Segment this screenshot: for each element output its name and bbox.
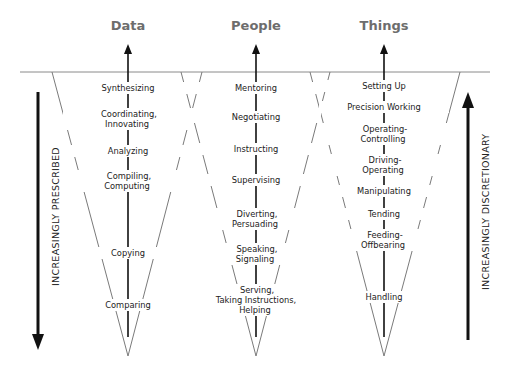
column-title-things: Things: [324, 18, 444, 33]
people-level-negotiating: Negotiating: [230, 112, 282, 122]
column-title-people: People: [196, 18, 316, 33]
up-arrow-icon: [462, 92, 474, 108]
people-level-serving: Serving, Taking Instructions, Helping: [216, 285, 296, 315]
things-level-tending: Tending: [366, 209, 402, 219]
things-up-arrow-icon: [380, 44, 388, 54]
things-level-feeding-offbearing: Feeding- Offbearing: [361, 230, 407, 250]
data-up-arrow-icon: [124, 44, 132, 54]
people-level-instructing: Instructing: [232, 144, 281, 154]
axis-label-discretionary: INCREASINGLY DISCRETIONARY: [480, 134, 491, 290]
people-level-speaking: Speaking, Signaling: [235, 244, 278, 264]
things-level-setting-up: Setting Up: [360, 81, 408, 91]
data-level-compiling: Compiling, Computing: [104, 171, 152, 191]
things-level-handling: Handling: [364, 292, 405, 302]
data-level-copying: Copying: [109, 248, 147, 258]
data-level-analyzing: Analyzing: [106, 146, 150, 156]
things-level-driving-operating: Driving- Operating: [362, 155, 405, 175]
things-level-operating-controlling: Operating- Controlling: [360, 124, 407, 144]
things-level-precision-working: Precision Working: [345, 102, 423, 112]
column-title-data: Data: [68, 18, 188, 33]
data-level-comparing: Comparing: [103, 300, 153, 310]
people-level-mentoring: Mentoring: [233, 83, 279, 93]
people-up-arrow-icon: [252, 44, 260, 54]
people-level-supervising: Supervising: [230, 175, 283, 185]
axis-label-prescribed: INCREASINGLY PRESCRIBED: [50, 147, 61, 286]
things-level-manipulating: Manipulating: [355, 186, 413, 196]
data-level-synthesizing: Synthesizing: [100, 83, 157, 93]
down-arrow-icon: [32, 334, 44, 350]
data-level-coordinating: Coordinating, Innovating: [99, 109, 157, 129]
people-level-diverting: Diverting, Persuading: [232, 209, 280, 229]
